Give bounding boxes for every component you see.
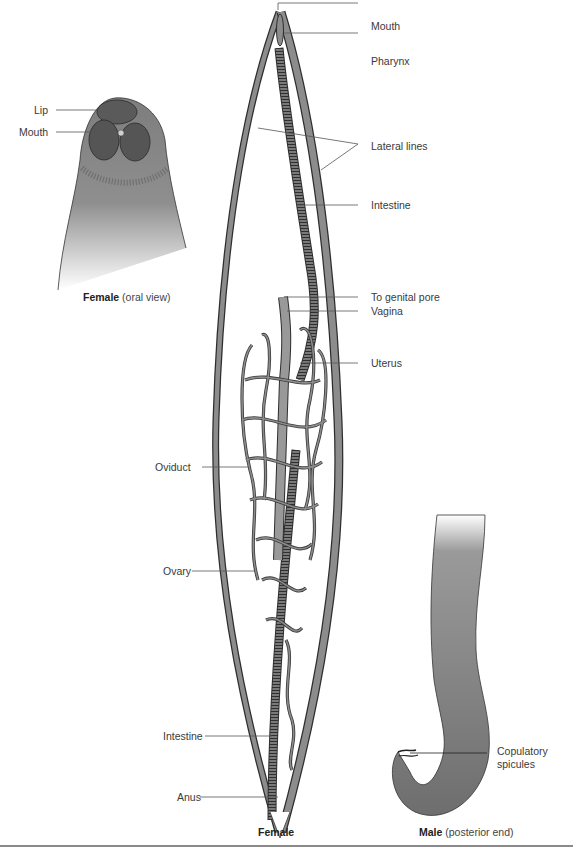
caption-bold: Male — [419, 826, 442, 838]
label-mouth-oral: Mouth — [19, 126, 48, 138]
label-intestine-anterior: Intestine — [371, 199, 411, 211]
female-body-drawing — [192, 3, 358, 838]
male-posterior-drawing — [392, 515, 489, 815]
roundworm-anatomy-illustration — [0, 0, 573, 859]
female-oral-view-drawing — [56, 98, 186, 290]
label-spicules: spicules — [497, 758, 535, 770]
label-intestine-posterior: Intestine — [163, 730, 203, 742]
caption-male-posterior-end: Male (posterior end) — [419, 826, 514, 838]
caption-sub: (oral view) — [122, 291, 170, 303]
caption-female: Female — [258, 826, 294, 838]
label-pharynx: Pharynx — [371, 55, 410, 67]
caption-bold: Female — [83, 291, 119, 303]
label-mouth: Mouth — [371, 20, 400, 32]
label-vagina: Vagina — [371, 305, 403, 317]
label-lip: Lip — [34, 104, 48, 116]
caption-bold: Female — [258, 826, 294, 838]
label-to-genital-pore: To genital pore — [371, 291, 440, 303]
label-ovary: Ovary — [163, 565, 191, 577]
caption-sub: (posterior end) — [445, 826, 513, 838]
label-anus: Anus — [177, 791, 201, 803]
bottom-divider — [0, 845, 573, 847]
caption-female-oral-view: Female (oral view) — [83, 291, 171, 303]
label-lateral-lines: Lateral lines — [371, 140, 428, 152]
label-oviduct: Oviduct — [155, 461, 191, 473]
label-copulatory: Copulatory — [497, 745, 548, 757]
label-uterus: Uterus — [371, 357, 402, 369]
